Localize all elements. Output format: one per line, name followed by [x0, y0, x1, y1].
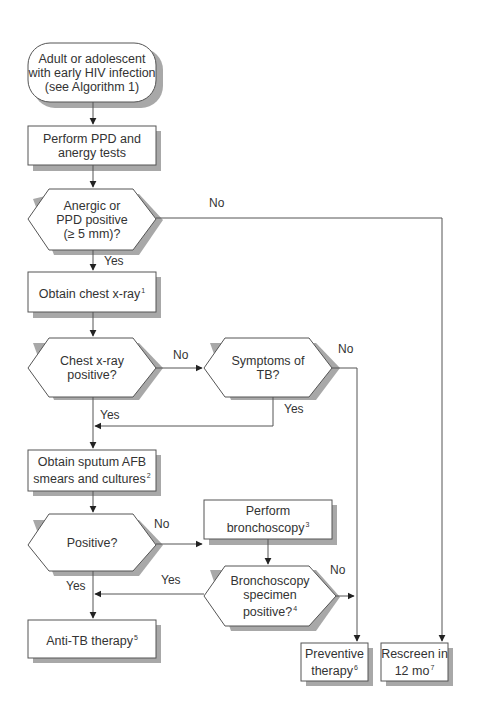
ppd-tests-node: Perform PPD and anergy tests [28, 126, 156, 165]
label-bronch-no: No [330, 563, 345, 577]
chest-xray-decision-node: Chest x-ray positive? [28, 338, 156, 397]
footnote-7: 7 [430, 664, 434, 671]
anergic-decision-node: Anergic or PPD positive (≥ 5 mm)? [28, 189, 156, 250]
bronch-decision-line-2: specimen [243, 588, 297, 602]
footnote-6: 6 [354, 664, 358, 671]
label-positive-yes: Yes [66, 579, 86, 593]
footnote-2: 2 [147, 472, 151, 479]
label-anergic-yes: Yes [104, 254, 124, 268]
sputum-node: Obtain sputum AFB smears and cultures2 [28, 450, 156, 491]
label-symptoms-no: No [338, 342, 353, 356]
footnote-5: 5 [134, 634, 138, 641]
positive-text: Positive? [67, 536, 118, 550]
label-bronch-yes: Yes [161, 573, 181, 587]
anti-tb-text: Anti-TB therapy [46, 634, 133, 648]
ppd-line-1: Perform PPD and [43, 132, 141, 146]
bronchoscopy-line-2: bronchoscopy [227, 521, 305, 535]
symptoms-line-2: TB? [257, 368, 280, 382]
bronchoscopy-line-1: Perform [246, 504, 290, 518]
footnote-4: 4 [293, 605, 297, 612]
sputum-line-1: Obtain sputum AFB [38, 455, 146, 469]
start-line-3: (see Algorithm 1) [45, 80, 139, 94]
ppd-line-2: anergy tests [58, 146, 126, 160]
start-node: Adult or adolescent with early HIV infec… [28, 43, 156, 102]
start-line-1: Adult or adolescent [38, 52, 145, 66]
label-symptoms-yes: Yes [284, 402, 304, 416]
symptoms-decision-node: Symptoms of TB? [204, 338, 332, 397]
chest-xray-node: Obtain chest x-ray1 [28, 272, 156, 312]
start-line-2: with early HIV infection [28, 66, 155, 80]
footnote-1: 1 [141, 287, 145, 294]
chest-xray-text: Obtain chest x-ray [39, 287, 140, 301]
positive-decision-node: Positive? [28, 514, 156, 571]
label-xray-no: No [173, 348, 188, 362]
sputum-line-2: smears and cultures [33, 472, 146, 486]
xray-decision-line-2: positive? [67, 368, 116, 382]
anergic-line-2: PPD positive [56, 213, 128, 227]
preventive-node: Preventive therapy6 [301, 643, 368, 681]
bronch-decision-node: Bronchoscopy specimen positive?4 [204, 566, 336, 626]
tb-screening-flowchart: Adult or adolescent with early HIV infec… [0, 0, 492, 719]
preventive-line-2: therapy [311, 664, 353, 678]
anti-tb-node: Anti-TB therapy5 [28, 620, 156, 658]
label-positive-no: No [154, 517, 169, 531]
bronch-decision-line-1: Bronchoscopy [230, 574, 309, 588]
label-xray-yes: Yes [100, 408, 120, 422]
rescreen-node: Rescreen in 12 mo7 [381, 643, 448, 681]
anergic-line-3: (≥ 5 mm)? [64, 227, 121, 241]
rescreen-line-2: 12 mo [395, 664, 430, 678]
bronch-decision-line-3: positive? [243, 605, 292, 619]
bronchoscopy-node: Perform bronchoscopy3 [204, 500, 332, 539]
xray-decision-line-1: Chest x-ray [60, 354, 124, 368]
preventive-line-1: Preventive [305, 647, 364, 661]
rescreen-line-1: Rescreen in [381, 647, 448, 661]
anergic-line-1: Anergic or [64, 199, 121, 213]
symptoms-line-1: Symptoms of [232, 354, 305, 368]
label-anergic-no: No [209, 196, 224, 210]
footnote-3: 3 [305, 521, 309, 528]
